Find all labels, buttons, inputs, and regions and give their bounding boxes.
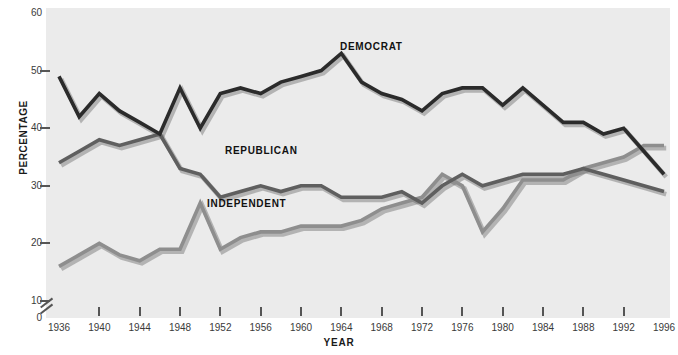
x-tick-mark <box>381 307 383 316</box>
x-tick-mark <box>300 307 302 316</box>
x-tick-label: 1960 <box>281 322 321 333</box>
y-tick-label: 60 <box>12 8 42 18</box>
plot-area <box>46 8 670 318</box>
x-tick-label: 1984 <box>523 322 563 333</box>
x-tick-mark <box>260 307 262 316</box>
series-label-republican: REPUBLICAN <box>225 145 298 156</box>
x-tick-mark <box>98 307 100 316</box>
x-tick-label: 1936 <box>39 322 79 333</box>
x-tick-mark <box>461 307 463 316</box>
x-tick-label: 1976 <box>442 322 482 333</box>
y-tick-mark <box>40 242 50 244</box>
x-tick-label: 1992 <box>604 322 644 333</box>
x-axis-title: YEAR <box>0 337 678 348</box>
x-tick-label: 1964 <box>321 322 361 333</box>
x-tick-mark <box>179 307 181 316</box>
y-tick-mark <box>40 127 50 129</box>
x-tick-mark <box>421 307 423 316</box>
x-tick-label: 1940 <box>79 322 119 333</box>
x-tick-mark <box>340 307 342 316</box>
x-tick-label: 1944 <box>120 322 160 333</box>
y-axis-title: PERCENTAGE <box>18 83 29 193</box>
x-tick-mark <box>582 307 584 316</box>
y-tick-label: 50 <box>12 66 42 76</box>
x-tick-label: 1980 <box>483 322 523 333</box>
x-tick-mark <box>139 307 141 316</box>
x-tick-label: 1952 <box>200 322 240 333</box>
x-tick-mark <box>502 307 504 316</box>
x-tick-label: 1988 <box>563 322 603 333</box>
y-tick-mark <box>40 70 50 72</box>
series-label-democrat: DEMOCRAT <box>340 41 403 52</box>
axis-break-icon <box>38 297 56 319</box>
x-tick-label: 1996 <box>644 322 678 333</box>
x-tick-label: 1972 <box>402 322 442 333</box>
party-identification-line-chart: 0102030405060 19361940194419481952195619… <box>0 0 678 355</box>
x-tick-mark <box>623 307 625 316</box>
x-tick-label: 1948 <box>160 322 200 333</box>
x-tick-mark <box>219 307 221 316</box>
x-tick-label: 1968 <box>362 322 402 333</box>
series-label-independent: INDEPENDENT <box>207 198 286 209</box>
y-tick-mark <box>40 185 50 187</box>
x-tick-label: 1956 <box>241 322 281 333</box>
y-tick-label: 20 <box>12 238 42 248</box>
x-tick-mark <box>542 307 544 316</box>
